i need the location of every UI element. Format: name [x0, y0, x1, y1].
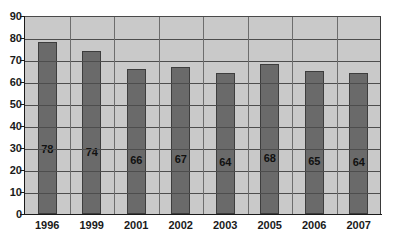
y-tick-mark: [20, 104, 25, 105]
bar: 74: [82, 51, 101, 214]
y-tick-mark: [20, 126, 25, 127]
y-tick-label: 40: [0, 121, 22, 132]
vertical-gridline: [159, 17, 160, 214]
bar-value-label: 64: [350, 157, 367, 168]
y-tick-label: 90: [0, 11, 22, 22]
vertical-gridline: [337, 17, 338, 214]
x-axis-line: [21, 214, 382, 215]
y-tick-mark: [20, 192, 25, 193]
y-tick-label: 10: [0, 187, 22, 198]
bar-value-label: 64: [217, 157, 234, 168]
bar-value-label: 68: [261, 153, 278, 164]
bar-value-label: 65: [306, 156, 323, 167]
y-tick-label: 60: [0, 77, 22, 88]
bar: 78: [38, 42, 57, 214]
x-tick-label: 2001: [114, 219, 159, 232]
vertical-gridline: [203, 17, 204, 214]
y-tick-label: 80: [0, 33, 22, 44]
x-tick-label: 1996: [25, 219, 70, 232]
vertical-gridline: [114, 17, 115, 214]
x-tick-label: 1999: [70, 219, 115, 232]
vertical-gridline: [292, 17, 293, 214]
y-tick-mark: [20, 38, 25, 39]
y-tick-mark: [20, 60, 25, 61]
x-tick-label: 2005: [248, 219, 293, 232]
x-tick-label: 2003: [203, 219, 248, 232]
plot-area: 7874666764686564: [25, 16, 381, 214]
x-axis-labels: 19961999200120022003200520062007: [25, 219, 381, 235]
y-tick-label: 50: [0, 99, 22, 110]
vertical-gridline: [248, 17, 249, 214]
y-axis-labels: 0102030405060708090: [0, 0, 22, 238]
y-tick-label: 0: [0, 209, 22, 220]
y-tick-mark: [20, 82, 25, 83]
y-tick-label: 70: [0, 55, 22, 66]
bar: 68: [260, 64, 279, 214]
y-tick-mark: [20, 16, 25, 17]
y-tick-label: 30: [0, 143, 22, 154]
vertical-gridline: [70, 17, 71, 214]
y-tick-mark: [20, 170, 25, 171]
x-tick-label: 2007: [337, 219, 382, 232]
bar: 67: [171, 67, 190, 214]
bar-value-label: 66: [128, 155, 145, 166]
y-tick-mark: [20, 148, 25, 149]
bar-value-label: 67: [172, 154, 189, 165]
y-tick-label: 20: [0, 165, 22, 176]
x-tick-label: 2002: [159, 219, 204, 232]
y-tick-mark: [20, 214, 25, 215]
bar-chart: 0102030405060708090 7874666764686564 199…: [0, 0, 393, 238]
x-tick-label: 2006: [292, 219, 337, 232]
